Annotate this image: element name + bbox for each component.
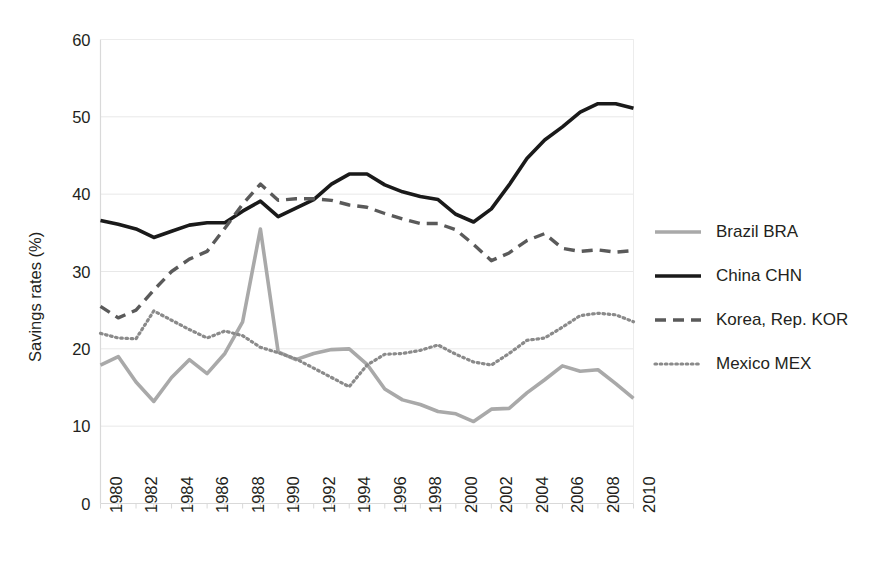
x-axis-tick-label: 2000 bbox=[463, 476, 480, 513]
x-axis-tick-label: 1992 bbox=[321, 476, 338, 513]
series-lines bbox=[101, 104, 634, 422]
x-axis-tick-label: 1980 bbox=[108, 476, 125, 513]
y-axis-tick-label: 40 bbox=[49, 186, 91, 203]
x-axis-tick-label: 1998 bbox=[427, 476, 444, 513]
x-axis-tick-label: 2006 bbox=[569, 476, 586, 513]
legend-item-label: Mexico MEX bbox=[716, 355, 811, 372]
chart-figure: Savings rates (%) 0102030405060 19801982… bbox=[0, 0, 887, 585]
x-axis-tick-label: 1984 bbox=[179, 476, 196, 513]
series-line-2 bbox=[101, 184, 634, 318]
legend-swatches bbox=[655, 232, 701, 364]
x-axis-tick-label: 1994 bbox=[356, 476, 373, 513]
x-axis-tick-label: 1988 bbox=[250, 476, 267, 513]
legend-item-label: Brazil BRA bbox=[716, 223, 798, 240]
x-axis-tick-label: 1982 bbox=[143, 476, 160, 513]
legend-item-label: China CHN bbox=[716, 267, 802, 284]
x-axis-tick-label: 1986 bbox=[214, 476, 231, 513]
y-axis-tick-label: 50 bbox=[49, 109, 91, 126]
x-axis-tick-label: 2004 bbox=[534, 476, 551, 513]
y-axis-title: Savings rates (%) bbox=[26, 232, 45, 362]
y-axis-tick-label: 20 bbox=[49, 341, 91, 358]
y-axis-tick-label: 60 bbox=[49, 32, 91, 49]
x-axis-tick-label: 2008 bbox=[605, 476, 622, 513]
x-axis-tick-label: 1990 bbox=[285, 476, 302, 513]
x-axis-tick-label: 2010 bbox=[641, 476, 658, 513]
x-axis-tick-label: 2002 bbox=[498, 476, 515, 513]
y-axis-tick-label: 0 bbox=[49, 496, 91, 513]
legend-item-label: Korea, Rep. KOR bbox=[716, 311, 848, 328]
y-axis-tick-label: 10 bbox=[49, 418, 91, 435]
series-line-1 bbox=[101, 104, 634, 238]
y-axis-tick-label: 30 bbox=[49, 264, 91, 281]
x-axis-tick-label: 1996 bbox=[392, 476, 409, 513]
